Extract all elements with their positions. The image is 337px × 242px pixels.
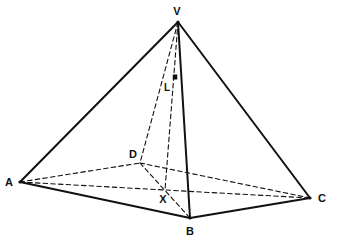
labels-group: V A B C D X L xyxy=(5,5,326,237)
label-vertex-B: B xyxy=(186,225,194,237)
vertex-dot-C xyxy=(308,196,311,199)
vertex-dot-B xyxy=(188,216,191,219)
pyramid-diagram-svg: V A B C D X L xyxy=(0,0,337,242)
edge-B-C xyxy=(190,198,310,218)
label-vertex-A: A xyxy=(5,176,13,188)
vertex-dot-A xyxy=(18,180,21,183)
altitude-point-dot xyxy=(173,75,178,80)
label-center-X: X xyxy=(159,193,167,205)
edge-V-A xyxy=(20,22,178,182)
edge-V-C xyxy=(178,22,310,198)
visible-edges-group xyxy=(20,22,310,218)
label-vertex-C: C xyxy=(318,192,326,204)
label-vertex-D: D xyxy=(129,148,137,160)
pyramid-figure: V A B C D X L xyxy=(0,0,337,242)
label-apex-V: V xyxy=(173,5,181,17)
hidden-edges-group xyxy=(20,22,310,218)
label-right-angle-L: L xyxy=(164,82,170,93)
vertex-dot-V xyxy=(176,20,179,23)
altitude-marker-group xyxy=(173,75,178,80)
vertex-dots-group xyxy=(18,20,311,219)
edge-V-B xyxy=(178,22,190,218)
edge-A-D xyxy=(20,163,140,182)
